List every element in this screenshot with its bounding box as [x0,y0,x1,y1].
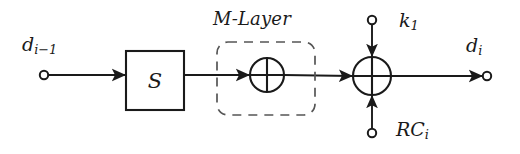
input-label: di−1 [22,35,57,57]
input-label-base: d [22,33,34,55]
output-terminal [483,72,491,80]
output-label-base: d [466,34,478,56]
edge-xor-m-to-xor-key [284,75,352,76]
key-terminal [368,16,376,24]
key-label-base: k [399,9,411,31]
round-constant-label-base: RC [396,118,425,140]
diagram-canvas: di−1 M-Layer S k1 RCi di [0,0,520,154]
s-box-label: S [126,51,184,110]
round-constant-terminal [368,129,376,137]
output-label-subscript: i [478,43,482,58]
key-label: k1 [399,11,419,33]
xor-m-layer [250,58,284,92]
input-terminal [40,71,48,79]
m-layer-label: M-Layer [213,10,291,28]
key-label-subscript: 1 [411,18,419,33]
round-constant-label-subscript: i [425,127,429,142]
output-label: di [466,36,482,58]
input-label-subscript: i−1 [34,42,57,57]
round-constant-label: RCi [396,120,429,142]
xor-key-addition [353,57,391,95]
